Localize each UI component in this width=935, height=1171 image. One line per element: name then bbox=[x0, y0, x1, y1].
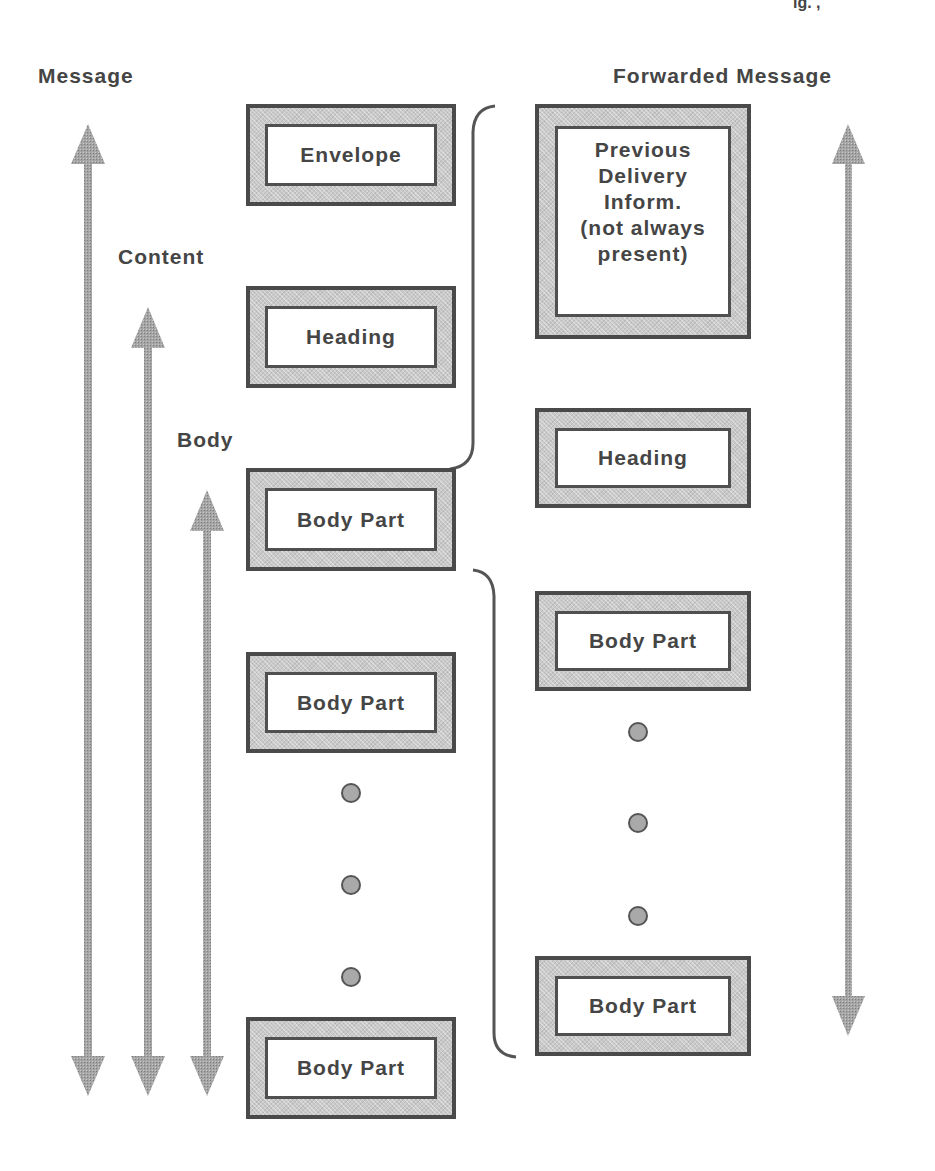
previous-delivery-info-box: Previous Delivery Inform. (not always pr… bbox=[535, 104, 751, 339]
body-part-box: Body Part bbox=[246, 652, 456, 753]
ellipsis-dot-icon bbox=[628, 906, 648, 926]
envelope-box-label: Envelope bbox=[300, 142, 401, 168]
body-part-box-label: Body Part bbox=[297, 507, 405, 533]
previous-delivery-info-label: Previous Delivery Inform. (not always pr… bbox=[580, 137, 705, 267]
ellipsis-dot-icon bbox=[341, 783, 361, 803]
forwarded-heading-box: Heading bbox=[535, 408, 751, 508]
forwarded-heading-box-label: Heading bbox=[598, 445, 688, 471]
upper-brace-icon bbox=[450, 106, 495, 469]
ellipsis-dot-icon bbox=[341, 875, 361, 895]
ellipsis-dot-icon bbox=[341, 967, 361, 987]
forwarded-message-double-arrow-icon bbox=[832, 124, 865, 1036]
forwarded-body-part-box-label: Body Part bbox=[589, 993, 697, 1019]
message-label: Message bbox=[38, 64, 134, 88]
body-double-arrow-icon bbox=[190, 490, 224, 1096]
body-part-box: Body Part bbox=[246, 468, 456, 571]
content-label: Content bbox=[118, 245, 204, 269]
lower-brace-icon bbox=[473, 570, 516, 1057]
forwarded-body-part-box-last: Body Part bbox=[535, 956, 751, 1056]
message-double-arrow-icon bbox=[71, 124, 105, 1096]
ellipsis-dot-icon bbox=[628, 722, 648, 742]
envelope-box: Envelope bbox=[246, 104, 456, 206]
content-double-arrow-icon bbox=[131, 307, 165, 1096]
body-part-box-label: Body Part bbox=[297, 690, 405, 716]
forwarded-message-label: Forwarded Message bbox=[613, 64, 832, 88]
heading-box-label: Heading bbox=[306, 324, 396, 350]
body-part-box-label: Body Part bbox=[297, 1055, 405, 1081]
body-part-box-last: Body Part bbox=[246, 1017, 456, 1119]
diagram-connectors bbox=[0, 0, 935, 1171]
ellipsis-dot-icon bbox=[628, 813, 648, 833]
forwarded-body-part-box-label: Body Part bbox=[589, 628, 697, 654]
body-label: Body bbox=[177, 428, 234, 452]
forwarded-body-part-box: Body Part bbox=[535, 591, 751, 691]
heading-box: Heading bbox=[246, 286, 456, 388]
